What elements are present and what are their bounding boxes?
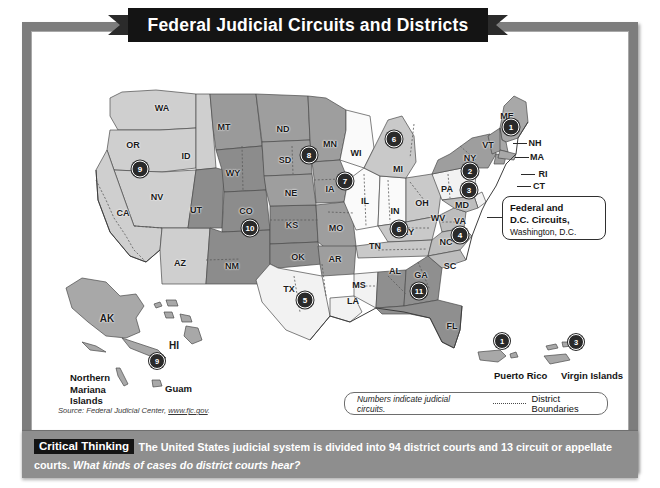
island-label-guam: Guam: [165, 383, 192, 394]
circuit-badge-2: 2: [462, 163, 479, 180]
circuit-badge-6: 6: [386, 131, 403, 148]
source-prefix: Source: Federal Judicial Center,: [58, 406, 168, 415]
circuit-badge-3: 3: [461, 182, 478, 199]
leader-line-ma: [515, 157, 529, 158]
circuit-badge-6: 6: [391, 221, 408, 238]
source-suffix: .: [208, 406, 210, 415]
page-title: Federal Judicial Circuits and Districts: [148, 15, 469, 36]
circuit-badge-9: 9: [132, 161, 149, 178]
leader-line-ct: [517, 186, 531, 187]
circuit-badge-5: 5: [297, 292, 314, 309]
federal-judicial-circuits-map-figure: Federal Judicial Circuits and Districts …: [0, 0, 660, 488]
federal-dc-circuits-callout: Federal and D.C. Circuits, Washington, D…: [502, 196, 606, 240]
circuit-badge-7: 7: [337, 173, 354, 190]
ribbon-body: Federal Judicial Circuits and Districts: [128, 8, 488, 42]
critical-thinking-tag: Critical Thinking: [34, 439, 134, 454]
callout-line-2: D.C. Circuits,: [510, 214, 598, 226]
circuit-badge-11: 11: [411, 283, 428, 300]
map-legend: Numbers indicate judicial circuits. Dist…: [344, 392, 608, 415]
circuit-badge-1: 1: [503, 119, 520, 136]
legend-district-boundaries-label: District Boundaries: [532, 394, 607, 414]
island-label-northern-mariana-islands: Northern Mariana Islands: [70, 372, 132, 407]
island-circuit-badge-3: 3: [568, 334, 584, 350]
circuit-badge-4: 4: [452, 227, 469, 244]
district-boundary-swatch-icon: [493, 403, 526, 404]
circuit-badge-8: 8: [301, 147, 318, 164]
critical-thinking-question: What kinds of cases do district courts h…: [73, 459, 300, 471]
source-url[interactable]: www.fjc.gov: [168, 406, 208, 415]
island-label-puerto-rico: Puerto Rico: [494, 370, 547, 381]
callout-line-3: Washington, D.C.: [510, 226, 598, 238]
leader-line-ri: [521, 174, 535, 175]
circuit-badge-10: 10: [242, 220, 259, 237]
island-circuit-badge-1: 1: [494, 333, 510, 349]
critical-thinking-bar: Critical Thinking The United States judi…: [22, 430, 638, 478]
callout-stem: [487, 217, 503, 218]
title-ribbon: Federal Judicial Circuits and Districts: [108, 8, 508, 42]
legend-circuits-note: Numbers indicate judicial circuits.: [357, 394, 477, 414]
callout-line-1: Federal and: [510, 202, 598, 214]
source-citation: Source: Federal Judicial Center, www.fjc…: [58, 406, 210, 415]
island-circuit-badge-9: 9: [149, 353, 165, 369]
leader-line-nh: [513, 143, 527, 144]
island-label-virgin-islands: Virgin Islands: [561, 370, 623, 381]
